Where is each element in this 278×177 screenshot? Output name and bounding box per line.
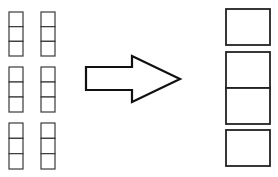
cell xyxy=(41,41,55,56)
cell xyxy=(41,12,55,27)
large-box xyxy=(226,52,270,124)
cell xyxy=(41,27,55,42)
small-stack xyxy=(9,67,23,112)
small-stack xyxy=(41,67,55,112)
cell xyxy=(9,123,23,138)
cell xyxy=(41,67,55,82)
cell xyxy=(9,154,23,169)
cell xyxy=(41,138,55,153)
cell xyxy=(9,27,23,42)
cell xyxy=(9,82,23,97)
small-stack xyxy=(41,12,55,56)
cell xyxy=(41,82,55,97)
cell xyxy=(9,12,23,27)
right-boxes-group xyxy=(226,9,270,166)
cell xyxy=(226,130,270,166)
small-stack xyxy=(9,123,23,169)
large-box xyxy=(226,130,270,166)
cell xyxy=(41,154,55,169)
cell xyxy=(41,97,55,112)
cell xyxy=(226,52,270,88)
cell xyxy=(226,88,270,124)
cell xyxy=(9,97,23,112)
cell xyxy=(226,9,270,45)
small-stack xyxy=(9,12,23,56)
small-stack xyxy=(41,123,55,169)
cell xyxy=(9,41,23,56)
diagram-canvas xyxy=(0,0,278,177)
arrow-right-icon xyxy=(86,56,180,102)
cell xyxy=(9,67,23,82)
large-box xyxy=(226,9,270,45)
cell xyxy=(9,138,23,153)
left-stacks-group xyxy=(9,12,55,169)
cell xyxy=(41,123,55,138)
